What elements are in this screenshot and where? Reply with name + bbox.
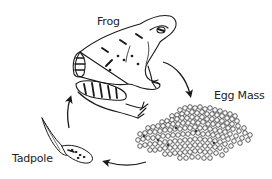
label-tadpole: Tadpole [12,152,53,165]
arrow-egg-mass-to-tadpole [106,162,146,165]
egg-mass-illustration [136,105,253,161]
arrow-tadpole-to-frog [68,99,70,128]
frog-illustration [73,15,176,118]
frog-life-cycle-diagram: Frog Egg Mass Tadpole [0,0,272,179]
label-egg-mass: Egg Mass [214,89,265,102]
label-frog: Frog [97,15,120,28]
arrow-frog-to-egg-mass [163,62,190,94]
